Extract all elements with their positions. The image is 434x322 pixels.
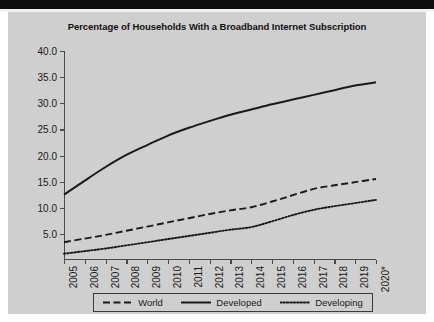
- x-axis-label: 2017: [318, 266, 329, 288]
- x-axis-tick: [189, 260, 190, 264]
- x-axis-label: 2016: [297, 266, 308, 288]
- y-axis-label: 10.0: [38, 202, 57, 213]
- y-axis-label: 15.0: [38, 176, 57, 187]
- y-axis-label: 40.0: [38, 46, 57, 57]
- x-axis-tick: [210, 260, 211, 264]
- x-axis-label: 2009: [151, 266, 162, 288]
- chart-legend: WorldDevelopedDeveloping: [93, 293, 373, 312]
- series-line-developed: [64, 82, 376, 194]
- x-axis-label: 2008: [130, 266, 141, 288]
- plot-area: 5.010.015.020.025.030.035.040.0 20052006…: [64, 51, 376, 260]
- chart-figure: Percentage of Households With a Broadban…: [0, 0, 434, 322]
- x-axis-label: 2007: [110, 266, 121, 288]
- legend-label: Developing: [315, 297, 363, 308]
- x-axis-tick: [147, 260, 148, 264]
- x-axis-label: 2005: [68, 266, 79, 288]
- series-line-developing: [64, 200, 376, 254]
- legend-label: World: [138, 297, 163, 308]
- legend-entry-world[interactable]: World: [103, 297, 163, 308]
- x-axis-tick: [376, 260, 377, 264]
- x-axis-tick: [334, 260, 335, 264]
- chart-panel: Percentage of Households With a Broadban…: [8, 12, 426, 314]
- x-axis-tick: [85, 260, 86, 264]
- x-axis-label: 2011: [193, 266, 204, 288]
- x-axis-tick: [230, 260, 231, 264]
- x-axis-label: 2014: [255, 266, 266, 288]
- x-axis-tick: [126, 260, 127, 264]
- x-axis-label: 2013: [234, 266, 245, 288]
- legend-label: Developed: [216, 297, 261, 308]
- x-axis-tick: [168, 260, 169, 264]
- x-axis-tick: [64, 260, 65, 264]
- legend-swatch-developed: [181, 298, 211, 307]
- x-axis-tick: [272, 260, 273, 264]
- x-axis-label: 2019: [359, 266, 370, 288]
- x-axis-label: 2018: [338, 266, 349, 288]
- y-axis-label: 25.0: [38, 124, 57, 135]
- y-axis-label: 20.0: [38, 150, 57, 161]
- x-axis-tick: [355, 260, 356, 264]
- x-axis-label: 2012: [214, 266, 225, 288]
- x-axis-label: 2006: [89, 266, 100, 288]
- legend-swatch-developing: [280, 298, 310, 307]
- x-axis-label: 2010: [172, 266, 183, 288]
- x-axis-label: 2020*: [380, 266, 391, 292]
- x-axis-label: 2015: [276, 266, 287, 288]
- series-line-world: [64, 179, 376, 242]
- legend-entry-developing[interactable]: Developing: [280, 297, 363, 308]
- series-layer: [64, 51, 376, 260]
- top-decoration-band: [0, 0, 434, 9]
- x-axis-tick: [314, 260, 315, 264]
- y-axis-label: 5.0: [43, 228, 57, 239]
- legend-entry-developed[interactable]: Developed: [181, 297, 261, 308]
- legend-swatch-world: [103, 298, 133, 307]
- chart-title: Percentage of Households With a Broadban…: [52, 20, 382, 33]
- x-axis-tick: [293, 260, 294, 264]
- x-axis-tick: [251, 260, 252, 264]
- y-axis-label: 30.0: [38, 98, 57, 109]
- y-axis-label: 35.0: [38, 72, 57, 83]
- x-axis-tick: [106, 260, 107, 264]
